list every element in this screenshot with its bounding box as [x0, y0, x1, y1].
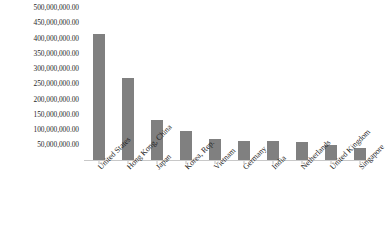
x-axis: United StatesHong Kong, ChinaJapanKorea,… [84, 161, 380, 243]
x-axis-category-slot: Korea, Rep. [171, 161, 200, 243]
y-axis-tick-label: 250,000,000.00 [0, 80, 79, 88]
y-axis-tick-label: 450,000,000.00 [0, 19, 79, 27]
bar-slot [171, 8, 200, 161]
y-axis-tick-label: 400,000,000.00 [0, 35, 79, 43]
x-axis-category-slot: Singapore [345, 161, 374, 243]
y-axis-tick-label: 300,000,000.00 [0, 65, 79, 73]
x-axis-category-slot: Germany [229, 161, 258, 243]
x-axis-category-slot: Vietnam [200, 161, 229, 243]
bar[interactable] [180, 131, 192, 161]
bar-slot [287, 8, 316, 161]
y-axis: 500,000,000.00450,000,000.00400,000,000.… [0, 0, 82, 170]
y-axis-tick-label: 350,000,000.00 [0, 50, 79, 58]
bar[interactable] [93, 34, 105, 161]
x-axis-category-slot: United Kingdom [316, 161, 345, 243]
bar-slot [84, 8, 113, 161]
x-axis-category-slot: Netherlands [287, 161, 316, 243]
x-axis-category-slot: Hong Kong, China [113, 161, 142, 243]
y-axis-tick-label: 100,000,000.00 [0, 126, 79, 134]
x-axis-category-slot: Japan [142, 161, 171, 243]
bar-slot [200, 8, 229, 161]
y-axis-tick-label: 200,000,000.00 [0, 96, 79, 104]
y-axis-tick-label: 150,000,000.00 [0, 111, 79, 119]
bar-slot [229, 8, 258, 161]
bar-slot [258, 8, 287, 161]
y-axis-tick-label: 500,000,000.00 [0, 4, 79, 12]
x-axis-category-slot: United States [84, 161, 113, 243]
y-axis-tick-label: 50,000,000.00 [0, 141, 79, 149]
bar-slot [316, 8, 345, 161]
x-axis-category-slot: India [258, 161, 287, 243]
